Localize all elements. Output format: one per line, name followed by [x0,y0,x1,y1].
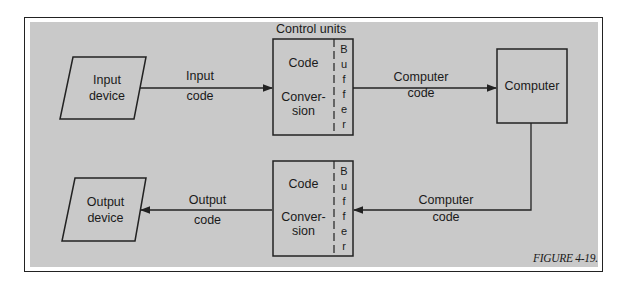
output-device-label-1: Output [78,195,133,210]
cu-top-code: Code [273,56,334,71]
input-code-label-2: code [175,89,225,104]
computer-label: Computer [497,79,567,94]
cu-bottom-code: Code [273,177,334,192]
cu-bottom-conv-1: Conver- [273,210,334,225]
cu-bottom-buffer-f2: f [337,210,351,223]
cu-top-buffer-f1: f [337,73,351,86]
cu-bottom-buffer-b: B [337,165,351,178]
cu-bottom-buffer-f1: f [337,195,351,208]
cu-top-conv-2: sion [273,104,334,119]
computer-code-in-label-1: Computer [411,193,481,208]
input-device-shape [60,57,146,119]
control-units-label: Control units [276,22,346,37]
cu-bottom-conv-2: sion [273,224,334,239]
cu-top-conv-1: Conver- [273,90,334,105]
input-device-label-2: device [82,89,132,104]
output-device-label-2: device [78,211,133,226]
output-code-label-2: code [180,213,235,228]
cu-top-buffer-e: e [337,103,351,116]
cu-bottom-buffer-r: r [337,240,351,253]
cu-bottom-buffer-e: e [337,225,351,238]
computer-code-out-label-2: code [386,86,456,101]
computer-code-in-label-2: code [411,210,481,225]
cu-top-buffer-f2: f [337,88,351,101]
cu-top-buffer-b: B [337,43,351,56]
output-code-label-1: Output [180,193,235,208]
cu-top-buffer-r: r [337,118,351,131]
figure-caption: FIGURE 4-19. [533,252,598,264]
diagram-lines [0,0,625,293]
input-device-label-1: Input [82,73,132,88]
computer-code-out-label-1: Computer [386,70,456,85]
input-code-label-1: Input [175,69,225,84]
cu-bottom-buffer-u: u [337,180,351,193]
cu-top-buffer-u: u [337,58,351,71]
